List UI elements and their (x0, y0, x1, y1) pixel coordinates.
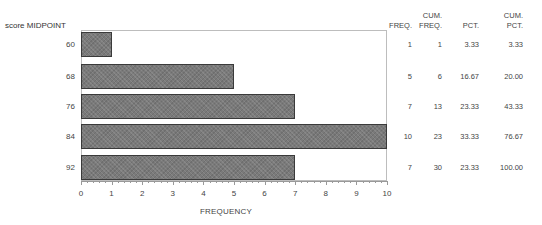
y-category-label: 68 (45, 72, 75, 81)
y-category-label: 92 (45, 163, 75, 172)
minor-tick (179, 181, 180, 183)
minor-tick (289, 181, 290, 183)
y-category-label: 84 (45, 132, 75, 141)
minor-tick (350, 181, 351, 183)
table-cell-cum-freq: 13 (412, 102, 442, 111)
minor-tick (307, 181, 308, 183)
minor-tick (222, 181, 223, 183)
table-cell-cum-freq: 1 (412, 40, 442, 49)
minor-tick (124, 181, 125, 183)
table-cell-cum-freq: 30 (412, 163, 442, 172)
x-tick-label: 8 (316, 189, 336, 198)
minor-tick (161, 181, 162, 183)
major-tick (81, 181, 82, 185)
bar-68 (81, 64, 234, 89)
major-tick (173, 181, 174, 185)
table-cell-cum-freq: 23 (412, 132, 442, 141)
header-pct: PCT. (450, 21, 479, 30)
table-cell-cum-pct: 100.00 (490, 163, 523, 172)
x-tick-label: 9 (346, 189, 366, 198)
minor-tick (277, 181, 278, 183)
minor-tick (252, 181, 253, 183)
bar-92 (81, 155, 295, 180)
x-tick-label: 7 (285, 189, 305, 198)
table-cell-cum-freq: 6 (412, 72, 442, 81)
major-tick (265, 181, 266, 185)
table-cell-freq: 5 (384, 72, 412, 81)
minor-tick (240, 181, 241, 183)
x-tick-label: 4 (193, 189, 213, 198)
x-tick-label: 6 (255, 189, 275, 198)
x-tick-label: 3 (163, 189, 183, 198)
minor-tick (283, 181, 284, 183)
major-tick (142, 181, 143, 185)
minor-tick (258, 181, 259, 183)
minor-tick (332, 181, 333, 183)
table-cell-freq: 10 (384, 132, 412, 141)
minor-tick (130, 181, 131, 183)
bar-60 (81, 32, 112, 57)
minor-tick (363, 181, 364, 183)
bar-84 (81, 124, 387, 149)
minor-tick (93, 181, 94, 183)
header-cum-pct-bottom: PCT. (490, 21, 523, 30)
table-cell-pct: 16.67 (450, 72, 479, 81)
x-tick-label: 0 (71, 189, 91, 198)
minor-tick (320, 181, 321, 183)
x-tick-label: 1 (102, 189, 122, 198)
table-cell-pct: 23.33 (450, 102, 479, 111)
major-tick (203, 181, 204, 185)
table-cell-cum-pct: 20.00 (490, 72, 523, 81)
minor-tick (271, 181, 272, 183)
table-cell-cum-pct: 3.33 (490, 40, 523, 49)
minor-tick (375, 181, 376, 183)
minor-tick (191, 181, 192, 183)
table-cell-freq: 7 (384, 102, 412, 111)
table-cell-cum-pct: 76.67 (490, 132, 523, 141)
x-tick-label: 10 (377, 189, 397, 198)
table-cell-cum-pct: 43.33 (490, 102, 523, 111)
header-cum-freq-top: CUM. (412, 11, 442, 20)
minor-tick (167, 181, 168, 183)
bar-76 (81, 94, 295, 119)
header-freq: FREQ. (384, 21, 412, 30)
table-cell-freq: 7 (384, 163, 412, 172)
minor-tick (344, 181, 345, 183)
major-tick (356, 181, 357, 185)
major-tick (295, 181, 296, 185)
y-axis-title: score MIDPOINT (5, 21, 66, 30)
table-cell-pct: 3.33 (450, 40, 479, 49)
major-tick (112, 181, 113, 185)
header-cum-freq-bottom: FREQ. (412, 21, 442, 30)
y-category-label: 76 (45, 102, 75, 111)
minor-tick (185, 181, 186, 183)
minor-tick (154, 181, 155, 183)
table-cell-pct: 23.33 (450, 163, 479, 172)
major-tick (326, 181, 327, 185)
major-tick (387, 181, 388, 185)
major-tick (234, 181, 235, 185)
minor-tick (210, 181, 211, 183)
minor-tick (197, 181, 198, 183)
minor-tick (105, 181, 106, 183)
y-category-label: 60 (45, 40, 75, 49)
minor-tick (381, 181, 382, 183)
minor-tick (314, 181, 315, 183)
minor-tick (118, 181, 119, 183)
x-tick-label: 5 (224, 189, 244, 198)
minor-tick (87, 181, 88, 183)
x-tick-label: 2 (132, 189, 152, 198)
minor-tick (369, 181, 370, 183)
header-cum-pct-top: CUM. (490, 11, 523, 20)
table-cell-freq: 1 (384, 40, 412, 49)
minor-tick (228, 181, 229, 183)
x-axis-title: FREQUENCY (200, 207, 252, 216)
minor-tick (136, 181, 137, 183)
minor-tick (99, 181, 100, 183)
minor-tick (338, 181, 339, 183)
minor-tick (301, 181, 302, 183)
minor-tick (148, 181, 149, 183)
table-cell-pct: 33.33 (450, 132, 479, 141)
minor-tick (246, 181, 247, 183)
minor-tick (216, 181, 217, 183)
